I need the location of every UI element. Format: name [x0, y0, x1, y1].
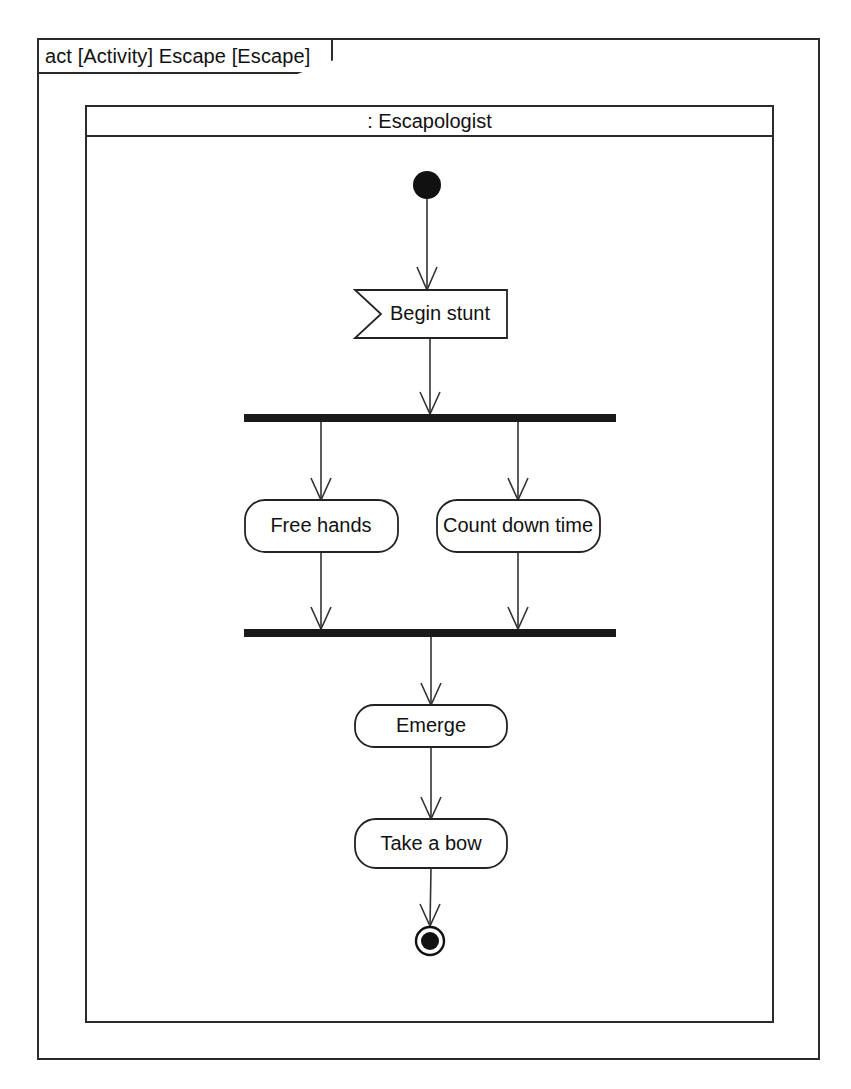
node-fork-node[interactable]: [244, 414, 616, 422]
partition-header: : Escapologist: [87, 107, 772, 137]
frame-heading-label: act [Activity] Escape [Escape]: [45, 43, 310, 69]
node-take-a-bow-label: Take a bow: [380, 832, 482, 854]
node-count-down-time[interactable]: Count down time: [437, 500, 600, 552]
node-emerge[interactable]: Emerge: [355, 705, 507, 747]
partition-header-label: : Escapologist: [367, 109, 492, 133]
node-count-down-time-label: Count down time: [443, 514, 593, 536]
partition-body: [87, 137, 772, 1021]
node-take-a-bow[interactable]: Take a bow: [355, 819, 507, 868]
node-activity-final-node[interactable]: [416, 927, 444, 955]
node-begin-stunt-label: Begin stunt: [390, 302, 491, 324]
activity-partition: : Escapologist: [85, 105, 774, 1023]
node-free-hands-label: Free hands: [270, 514, 371, 536]
node-initial-node[interactable]: [413, 171, 441, 199]
node-join-node[interactable]: [244, 629, 616, 637]
node-emerge-label: Emerge: [396, 714, 466, 736]
diagram-canvas: act [Activity] Escape [Escape] : Escapol…: [0, 0, 851, 1089]
node-free-hands[interactable]: Free hands: [245, 500, 398, 552]
